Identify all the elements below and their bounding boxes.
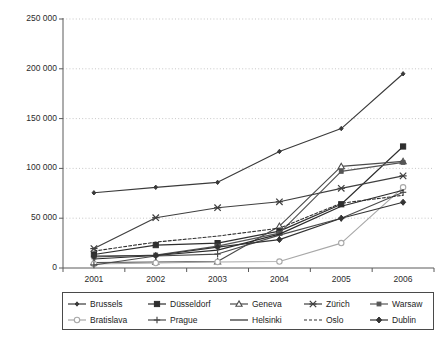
legend-label: Dublin — [392, 315, 416, 325]
series-oslo — [94, 195, 403, 251]
legend-label: Düsseldorf — [170, 299, 211, 309]
data-point-marker — [216, 180, 220, 184]
legend-item-dublin[interactable]: Dublin — [369, 315, 431, 325]
legend-item-prague[interactable]: Prague — [147, 315, 229, 325]
legend-symbol-diamond-small-icon — [67, 299, 87, 309]
data-point-marker — [338, 185, 345, 191]
data-point-marker — [154, 301, 159, 306]
legend-symbol-none-icon — [229, 315, 249, 325]
data-point-marker — [154, 317, 160, 323]
data-point-marker — [75, 302, 79, 306]
data-point-marker — [277, 237, 282, 243]
data-point-marker — [339, 215, 344, 221]
legend-label: Bratislava — [90, 315, 127, 325]
legend-item-z-rich[interactable]: Zürich — [303, 299, 369, 309]
line-chart: Degree 050 000100 000150 000200 000250 0… — [0, 0, 443, 341]
data-point-marker — [154, 185, 158, 189]
data-point-marker — [339, 240, 344, 245]
legend-symbol-cross-icon — [303, 299, 323, 309]
data-point-marker — [376, 317, 381, 323]
data-point-marker — [338, 163, 344, 168]
legend-item-warsaw[interactable]: Warsaw — [369, 299, 431, 309]
legend-symbol-plus-icon — [147, 315, 167, 325]
series-brussels — [92, 72, 405, 195]
data-point-marker — [277, 259, 282, 264]
data-point-marker — [236, 301, 242, 306]
data-point-marker — [401, 161, 405, 165]
legend-label: Warsaw — [392, 299, 422, 309]
legend-symbol-dashed-icon — [303, 315, 323, 325]
series-helsinki — [94, 190, 403, 259]
legend-item-d-sseldorf[interactable]: Düsseldorf — [147, 299, 229, 309]
legend-label: Oslo — [326, 315, 343, 325]
legend-symbol-diamond-filled-icon — [369, 315, 389, 325]
legend-item-bratislava[interactable]: Bratislava — [67, 315, 147, 325]
series-dublin — [91, 199, 405, 259]
legend-label: Brussels — [90, 299, 123, 309]
legend-symbol-square-filled-icon — [147, 299, 167, 309]
data-point-marker — [339, 169, 343, 173]
data-point-marker — [400, 199, 405, 205]
data-point-marker — [214, 205, 221, 211]
data-point-marker — [74, 317, 79, 322]
data-point-marker — [153, 242, 158, 247]
legend-label: Prague — [170, 315, 197, 325]
series-geneva — [91, 158, 406, 264]
chart-legend: BrusselsDüsseldorfGenevaZürichWarsawBrat… — [62, 292, 434, 330]
data-point-marker — [377, 302, 381, 306]
legend-item-helsinki[interactable]: Helsinki — [229, 315, 303, 325]
data-point-marker — [215, 259, 220, 264]
legend-label: Geneva — [252, 299, 282, 309]
data-point-marker — [214, 251, 220, 257]
data-point-marker — [276, 199, 283, 205]
legend-item-brussels[interactable]: Brussels — [67, 299, 147, 309]
data-point-marker — [92, 191, 96, 195]
data-point-marker — [399, 173, 406, 179]
data-point-marker — [278, 149, 282, 153]
data-point-marker — [400, 144, 405, 149]
plot-area — [0, 0, 443, 341]
data-point-marker — [153, 260, 158, 265]
data-point-marker — [152, 215, 159, 221]
series-bratislava — [91, 185, 406, 267]
legend-symbol-circle-open-icon — [67, 315, 87, 325]
legend-label: Helsinki — [252, 315, 282, 325]
legend-item-geneva[interactable]: Geneva — [229, 299, 303, 309]
legend-item-oslo[interactable]: Oslo — [303, 315, 369, 325]
legend-symbol-square-small-icon — [369, 299, 389, 309]
legend-label: Zürich — [326, 299, 350, 309]
data-point-marker — [309, 301, 316, 307]
legend-symbol-triangle-open-icon — [229, 299, 249, 309]
